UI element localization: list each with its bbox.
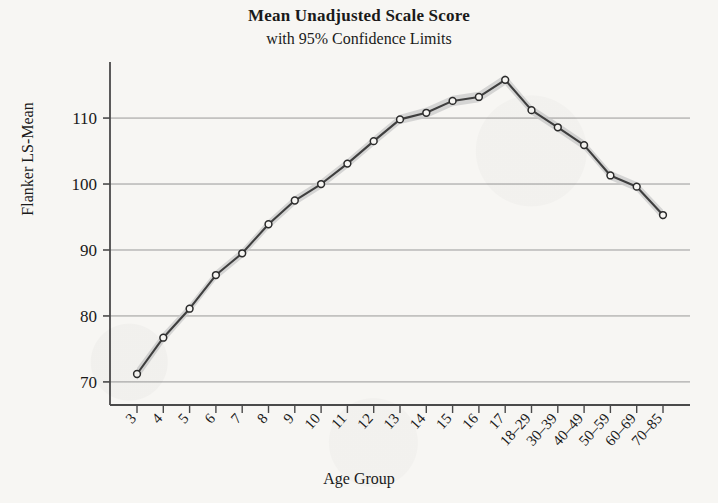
x-tick-label: 12 [354,410,376,432]
x-axis-title: Age Group [0,470,718,488]
x-axis-tick-labels: 3456789101112131415161718–2930–3940–4950… [122,410,665,449]
y-axis-title: Flanker LS-Mean [19,69,37,249]
plot-area: 708090100110 3456789101112131415161718–2… [0,0,718,503]
x-tick-label: 14 [407,410,429,432]
y-tick-label: 90 [80,241,97,260]
x-tick-label: 16 [459,410,481,432]
x-tick-label: 15 [433,410,455,432]
x-tick-label: 10 [301,410,323,432]
y-tick-label: 100 [72,175,98,194]
y-axis-tick-labels: 708090100110 [72,109,98,392]
x-tick-label: 13 [380,410,402,432]
data-point-markers [134,76,667,377]
axes [103,62,690,413]
chart-figure: Mean Unadjusted Scale Score with 95% Con… [0,0,718,503]
y-tick-label: 110 [72,109,97,128]
gridlines [110,118,690,382]
y-tick-label: 80 [80,307,97,326]
x-tick-label: 11 [328,410,350,431]
y-tick-label: 70 [80,373,97,392]
x-tick-label: 70–85 [628,410,665,449]
